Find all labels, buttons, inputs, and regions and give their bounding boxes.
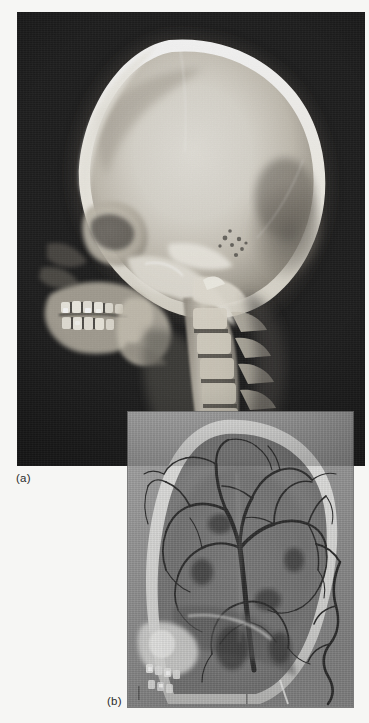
panel-b-label: (b) — [107, 696, 122, 708]
panel-a-skull-radiograph — [17, 12, 365, 466]
panel-b-cerebral-angiogram — [128, 412, 353, 707]
film-grain — [17, 12, 365, 466]
skull-radiograph-image — [17, 12, 365, 466]
panel-a-label: (a) — [16, 473, 31, 485]
angio-film-grain — [128, 412, 353, 707]
figure-page: (a) (b) — [0, 0, 369, 723]
angiogram-image — [128, 412, 353, 707]
